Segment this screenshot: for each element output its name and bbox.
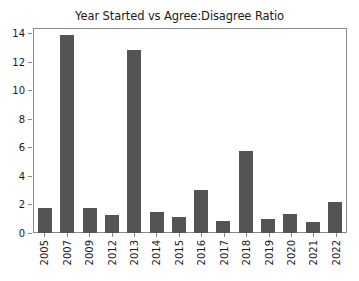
bar	[150, 212, 164, 233]
bar	[83, 208, 97, 233]
x-tick-mark	[313, 233, 314, 237]
y-tick-label: 6	[0, 142, 25, 153]
bar	[328, 202, 342, 233]
bar	[194, 190, 208, 233]
y-tick-label: 0	[0, 228, 25, 239]
y-tick-mark	[28, 233, 32, 234]
x-tick-mark	[291, 233, 292, 237]
x-tick-mark	[246, 233, 247, 237]
x-tick-mark	[336, 233, 337, 237]
x-tick-label-text: 2022	[331, 240, 342, 265]
bar-slot	[301, 29, 323, 233]
bar-slot	[235, 29, 257, 233]
bar-slot	[79, 29, 101, 233]
bar	[172, 217, 186, 233]
bar-slot	[34, 29, 56, 233]
x-tick-label-text: 2019	[264, 240, 275, 265]
x-tick-mark	[67, 233, 68, 237]
bar-slot	[190, 29, 212, 233]
y-tick-mark	[28, 119, 32, 120]
bar-slot	[168, 29, 190, 233]
x-tick-label-text: 2018	[241, 240, 252, 265]
y-tick-mark	[28, 90, 32, 91]
y-tick-mark	[28, 33, 32, 34]
bar	[216, 221, 230, 233]
bar	[261, 219, 275, 233]
x-tick-mark	[89, 233, 90, 237]
bar-slot	[123, 29, 145, 233]
y-tick-mark	[28, 62, 32, 63]
bar	[105, 215, 119, 233]
x-tick-label-text: 2012	[107, 240, 118, 265]
x-tick-label-text: 2013	[129, 240, 140, 265]
y-tick-mark	[28, 176, 32, 177]
y-tick-label: 4	[0, 170, 25, 181]
bar-slot	[212, 29, 234, 233]
bar	[239, 151, 253, 233]
x-tick-label-text: 2020	[286, 240, 297, 265]
x-tick-label-text: 2021	[308, 240, 319, 265]
bar-slot	[101, 29, 123, 233]
x-tick-mark	[134, 233, 135, 237]
bar-slot	[56, 29, 78, 233]
x-tick-mark	[179, 233, 180, 237]
bar-slot	[279, 29, 301, 233]
x-tick-label-text: 2014	[151, 240, 162, 265]
x-tick-mark	[269, 233, 270, 237]
x-tick-label-text: 2009	[84, 240, 95, 265]
x-tick-label-text: 2005	[39, 240, 50, 265]
bar-slot	[324, 29, 346, 233]
bar-slot	[257, 29, 279, 233]
y-tick-label: 2	[0, 199, 25, 210]
x-tick-label-text: 2015	[174, 240, 185, 265]
y-tick-label: 10	[0, 85, 25, 96]
x-tick-mark	[112, 233, 113, 237]
bar	[306, 222, 320, 233]
x-tick-mark	[156, 233, 157, 237]
bar	[127, 50, 141, 233]
y-tick-label: 14	[0, 28, 25, 39]
x-tick-label-text: 2007	[62, 240, 73, 265]
y-tick-mark	[28, 204, 32, 205]
x-tick-mark	[224, 233, 225, 237]
y-tick-mark	[28, 147, 32, 148]
x-tick-mark	[44, 233, 45, 237]
bar	[60, 35, 74, 233]
bar	[283, 214, 297, 233]
bar-series	[34, 29, 346, 233]
bar	[38, 208, 52, 233]
chart-figure: Year Started vs Agree:Disagree Ratio 024…	[0, 0, 359, 281]
y-tick-label: 8	[0, 113, 25, 124]
x-tick-mark	[201, 233, 202, 237]
x-tick-label-text: 2017	[219, 240, 230, 265]
chart-title: Year Started vs Agree:Disagree Ratio	[0, 9, 359, 23]
x-tick-label-text: 2016	[196, 240, 207, 265]
bar-slot	[145, 29, 167, 233]
y-tick-label: 12	[0, 56, 25, 67]
